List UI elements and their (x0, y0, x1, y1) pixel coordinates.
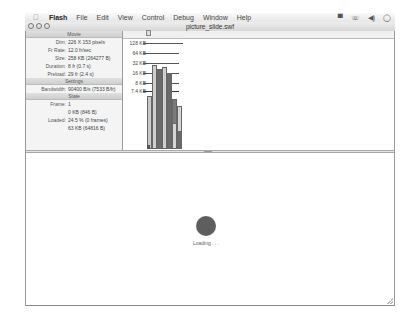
settings-header: Settings (26, 78, 122, 85)
stat-value: 8 fr (0.7 s) (68, 62, 91, 70)
stat-label: Loaded: (26, 116, 68, 124)
splitter-grip[interactable] (204, 151, 212, 152)
stat-value: 12.0 fr/sec (68, 46, 91, 54)
loading-text: Loading . . . (176, 240, 236, 246)
stat-value: 24.5 % (0 frames) (68, 116, 108, 124)
stat-value: 63 KB (64816 B) (68, 124, 105, 132)
stat-row: Fr Rate:12.0 fr/sec (26, 46, 122, 54)
bandwidth-graph: · · · · · · · · 128 KB 64 KB 32 KB 16 KB… (123, 31, 394, 150)
stat-row: Duration:8 fr (0.7 s) (26, 62, 122, 70)
stat-label: Duration: (26, 62, 68, 70)
stat-value: 90400 B/s (7533 B/fr) (68, 85, 116, 93)
stat-row: Loaded:24.5 % (0 frames) (26, 116, 122, 124)
phone-icon[interactable]: ☏ (351, 13, 360, 22)
stat-label: Preload: (26, 70, 68, 78)
stat-label: Dim: (26, 38, 68, 46)
frame-bar-lower (177, 131, 182, 149)
movie-header: Movie (26, 31, 122, 38)
window-title: picture_slide.swf (25, 22, 395, 31)
movie-stage: Loading . . . (26, 153, 394, 305)
stat-label (26, 108, 68, 116)
menu-edit[interactable]: Edit (97, 14, 109, 21)
stat-label: Fr Rate: (26, 46, 68, 54)
stat-label: Size: (26, 54, 68, 62)
stat-row: 63 KB (64816 B) (26, 124, 122, 132)
stat-row: Frame:1 (26, 100, 122, 108)
player-window: Movie Dim:226 X 153 pixels Fr Rate:12.0 … (25, 31, 395, 306)
stat-label: Bandwidth: (26, 85, 68, 93)
clock-icon[interactable]: ◯ (383, 13, 391, 22)
stat-row: Preload:29 fr (2.4 s) (26, 70, 122, 78)
menu-flash[interactable]: Flash (49, 14, 67, 21)
stat-row: Bandwidth:90400 B/s (7533 B/fr) (26, 85, 122, 93)
volume-icon[interactable]: ◀) (368, 13, 375, 22)
stat-label (26, 124, 68, 132)
stat-row: Size:258 KB (264277 B) (26, 54, 122, 62)
menu-help[interactable]: Help (237, 14, 251, 21)
stat-label: Frame: (26, 100, 68, 108)
menu-control[interactable]: Control (142, 14, 165, 21)
menu-extras: ▀ ☏ ◀) ◯ (338, 13, 391, 22)
state-header: State (26, 93, 122, 100)
stat-value: 226 X 153 pixels (68, 38, 105, 46)
stat-value: 258 KB (264277 B) (68, 54, 111, 62)
bar-area (147, 31, 187, 149)
menu-view[interactable]: View (118, 14, 133, 21)
resize-grip-icon[interactable] (387, 298, 393, 304)
stat-value: 1 (68, 100, 71, 108)
apple-menu-icon[interactable]:  (31, 13, 41, 22)
frame-bar-marker (147, 145, 150, 149)
stats-panel: Movie Dim:226 X 153 pixels Fr Rate:12.0 … (26, 31, 123, 150)
stat-row: 0 KB (846 B) (26, 108, 122, 116)
stat-value: 29 fr (2.4 s) (68, 70, 94, 78)
loading-circle-icon (196, 216, 216, 236)
menu-debug[interactable]: Debug (173, 14, 194, 21)
display-icon[interactable]: ▀ (338, 13, 343, 22)
stat-row: Dim:226 X 153 pixels (26, 38, 122, 46)
menu-file[interactable]: File (76, 14, 87, 21)
stat-value: 0 KB (846 B) (68, 108, 97, 116)
menu-window[interactable]: Window (203, 14, 228, 21)
